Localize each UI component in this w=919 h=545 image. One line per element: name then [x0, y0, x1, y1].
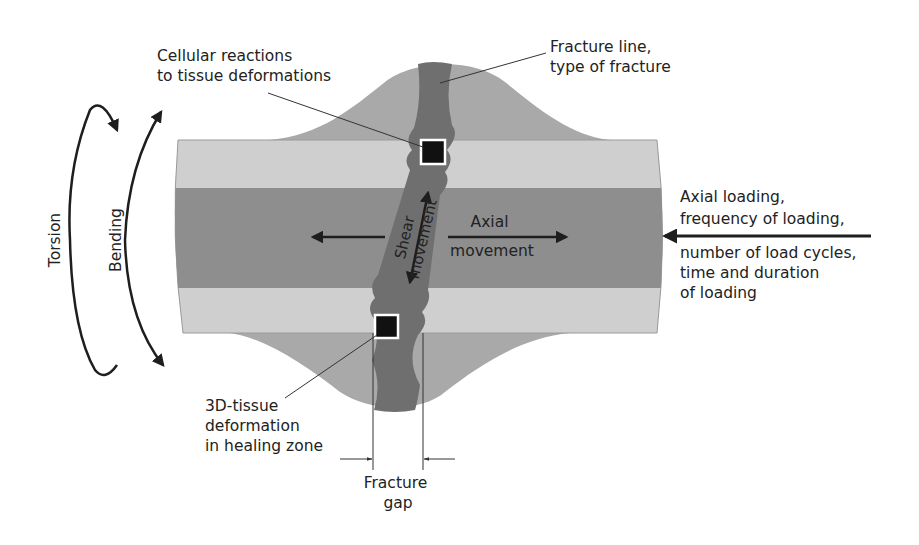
- bending-arrow-icon: [125, 112, 163, 365]
- label-fracture-line: Fracture line, type of fracture: [550, 38, 671, 76]
- label-cellular-reactions: Cellular reactions to tissue deformation…: [157, 47, 331, 85]
- fracture-healing-diagram: Cellular reactions to tissue deformation…: [0, 0, 919, 545]
- cell-marker-upper: [421, 140, 445, 164]
- cell-marker-lower: [375, 315, 398, 338]
- label-bending: Bending: [107, 208, 125, 272]
- label-tissue-deformation: 3D-tissue deformation in healing zone: [205, 397, 323, 455]
- label-axial-loading: Axial loading, frequency of loading, num…: [680, 188, 861, 302]
- label-fracture-gap: Fracture gap: [364, 474, 433, 512]
- label-torsion: Torsion: [46, 213, 64, 268]
